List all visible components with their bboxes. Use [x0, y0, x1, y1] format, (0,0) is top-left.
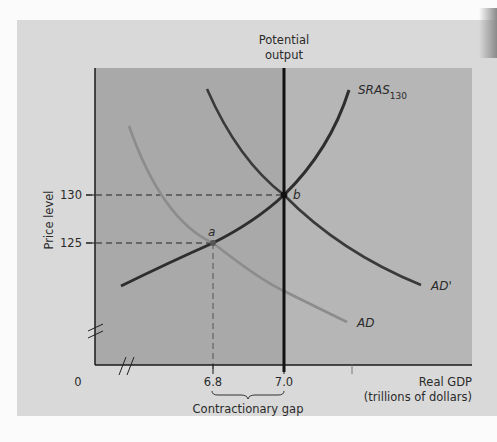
- x-tick-label-6-8: 6.8: [204, 375, 222, 389]
- x-axis-title-line2: (trillions of dollars): [364, 390, 472, 404]
- point-b-marker: [281, 192, 288, 199]
- point-b-label: b: [293, 188, 301, 202]
- y-tick-label-130: 130: [60, 188, 82, 202]
- point-a-label: a: [208, 225, 215, 239]
- point-a-marker: [210, 240, 216, 246]
- origin-label: 0: [74, 375, 81, 389]
- y-axis-title: Price level: [42, 190, 56, 249]
- plot-region-right: [284, 68, 472, 365]
- y-tick-label-125: 125: [60, 236, 82, 250]
- potential-output-label-line2: output: [265, 48, 303, 62]
- chart-figure: a b SRAS130 AD' AD Potential output 130 …: [0, 0, 497, 442]
- ad-label: AD: [356, 316, 374, 330]
- x-tick-label-7-0: 7.0: [275, 375, 293, 389]
- ad-prime-label: AD': [430, 279, 452, 293]
- page-edge-shadow: [479, 8, 497, 58]
- contractionary-gap-label: Contractionary gap: [193, 402, 304, 416]
- potential-output-label-line1: Potential: [259, 33, 309, 47]
- x-axis-title-line1: Real GDP: [419, 375, 472, 389]
